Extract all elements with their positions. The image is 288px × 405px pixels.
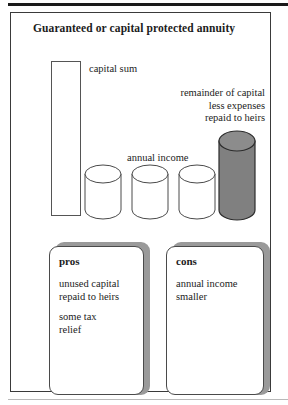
cons-card[interactable] [166, 246, 264, 395]
annual-income-label: annual income [127, 152, 189, 165]
page-top-rule [8, 3, 288, 6]
capital-sum-label: capital sum [89, 63, 137, 76]
pros-item-2: some tax relief [59, 311, 97, 336]
figure-frame: Guaranteed or capital protected annuity … [10, 12, 271, 392]
figure-page: Guaranteed or capital protected annuity … [0, 0, 288, 405]
annual-income-cylinder-1 [84, 164, 122, 220]
annual-income-cylinder-2 [131, 164, 169, 220]
annual-income-cylinder-3 [178, 164, 216, 220]
capital-sum-bar [51, 61, 81, 216]
cons-heading: cons [176, 255, 197, 267]
remainder-label: remainder of capital less expenses repai… [169, 87, 265, 125]
pros-item-1: unused capital repaid to heirs [59, 278, 119, 303]
page-bottom-rule [8, 399, 288, 400]
cons-item-1: annual income smaller [176, 278, 238, 303]
figure-title: Guaranteed or capital protected annuity [33, 22, 235, 34]
remainder-cylinder [218, 130, 256, 222]
pros-heading: pros [59, 255, 80, 267]
